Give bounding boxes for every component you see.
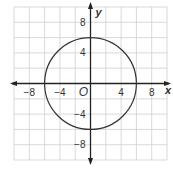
y-tick-label: 8: [80, 17, 86, 28]
origin-label: O: [79, 85, 88, 99]
coordinate-plane: −8−44884−4−8Oxy: [0, 0, 173, 169]
x-axis-left-arrow-icon: [10, 81, 17, 86]
y-tick-label: 4: [80, 47, 86, 58]
y-tick-label: −4: [74, 109, 86, 120]
y-axis-down-arrow-icon: [88, 158, 93, 165]
axes: [10, 2, 171, 165]
y-axis-up-arrow-icon: [88, 2, 93, 9]
y-tick-label: −8: [74, 139, 86, 150]
x-tick-label: 8: [149, 87, 155, 98]
x-axis-label: x: [164, 84, 172, 96]
x-tick-label: 4: [118, 87, 124, 98]
x-tick-label: −4: [54, 87, 66, 98]
x-tick-label: −8: [24, 87, 36, 98]
y-axis-label: y: [94, 6, 102, 18]
